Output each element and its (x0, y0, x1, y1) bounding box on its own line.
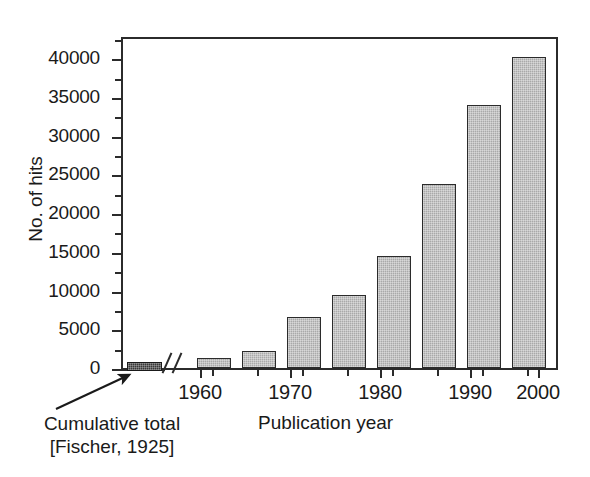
x-tick-minor-1995 (482, 370, 484, 376)
annotation-caption: Cumulative total [Fischer, 1925] (17, 412, 207, 458)
x-tick-1960 (200, 370, 202, 378)
bar-2000 (512, 57, 546, 368)
x-tick-minor-1985 (392, 370, 394, 376)
y-tick-10000 (112, 292, 121, 294)
y-tick-minor-17500 (115, 233, 121, 235)
y-tick-5000 (112, 330, 121, 332)
y-tick-25000 (112, 175, 121, 177)
bar-1965 (197, 358, 231, 368)
bar-1970 (242, 351, 276, 368)
annotation-caption-line1: Cumulative total (17, 412, 207, 435)
y-tick-minor-37500 (115, 79, 121, 81)
x-tick-minor-1980 (347, 370, 349, 376)
y-tick-label-text: 10000 (48, 280, 100, 302)
y-tick-label-text: 40000 (48, 47, 100, 69)
x-tick-label-2000: 2000 (516, 381, 560, 404)
bar-1985 (377, 256, 411, 368)
y-tick-minor-42500 (115, 40, 121, 42)
y-tick-minor-7500 (115, 311, 121, 313)
plot-area (121, 37, 558, 370)
bar-1980 (332, 295, 366, 368)
y-tick-label-text: 20000 (48, 202, 100, 224)
y-tick-minor-12500 (115, 272, 121, 274)
x-tick-label-1990: 1990 (448, 381, 492, 404)
x-tick-label-1960: 1960 (178, 381, 222, 404)
y-tick-15000 (112, 253, 121, 255)
x-tick-1970 (290, 370, 292, 378)
x-tick-label-1980: 1980 (358, 381, 402, 404)
x-tick-label-1970: 1970 (268, 381, 312, 404)
bar-1995 (467, 105, 501, 368)
y-tick-minor-27500 (115, 156, 121, 158)
x-tick-minor-1975 (302, 370, 304, 376)
y-tick-minor-2500 (115, 350, 121, 352)
bar-1990 (422, 184, 456, 368)
x-axis-title: Publication year (258, 412, 393, 434)
x-tick-2000 (538, 370, 540, 378)
y-axis-title: No. of hits (25, 139, 47, 259)
y-tick-20000 (112, 214, 121, 216)
y-tick-30000 (112, 137, 121, 139)
y-tick-minor-22500 (115, 195, 121, 197)
y-tick-label-text: 5000 (59, 318, 100, 340)
y-tick-label-text: 25000 (48, 163, 100, 185)
x-tick-minor-1965 (212, 370, 214, 376)
x-tick-minor-1970 (257, 370, 259, 376)
x-tick-minor-2000 (527, 370, 529, 376)
y-tick-label-text: 15000 (48, 241, 100, 263)
y-tick-minor-32500 (115, 117, 121, 119)
bar-1975 (287, 317, 321, 368)
annotation-arrow-icon (45, 366, 145, 414)
annotation-caption-line2: [Fischer, 1925] (17, 435, 207, 458)
y-tick-40000 (112, 59, 121, 61)
bar-chart-figure: 0500010000150002000025000300003500040000… (0, 0, 590, 477)
y-tick-35000 (112, 98, 121, 100)
x-tick-minor-1990 (437, 370, 439, 376)
y-tick-label-text: 35000 (48, 86, 100, 108)
y-tick-label-text: 30000 (48, 125, 100, 147)
x-tick-1990 (470, 370, 472, 378)
x-tick-1980 (380, 370, 382, 378)
